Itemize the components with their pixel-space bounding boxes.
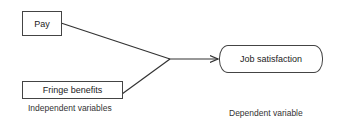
node-job-satisfaction-label: Job satisfaction: [240, 54, 302, 64]
node-pay-label: Pay: [34, 19, 50, 29]
node-pay: Pay: [22, 11, 62, 36]
edge-pay: [61, 23, 170, 59]
node-job-satisfaction: Job satisfaction: [219, 45, 323, 73]
edge-fringe: [122, 59, 170, 94]
node-fringe-benefits: Fringe benefits: [22, 81, 123, 99]
node-fringe-label: Fringe benefits: [43, 85, 103, 95]
caption-independent: Independent variables: [28, 103, 112, 113]
diagram-canvas: Pay Fringe benefits Job satisfaction Ind…: [0, 0, 338, 126]
caption-dependent: Dependent variable: [229, 108, 303, 118]
